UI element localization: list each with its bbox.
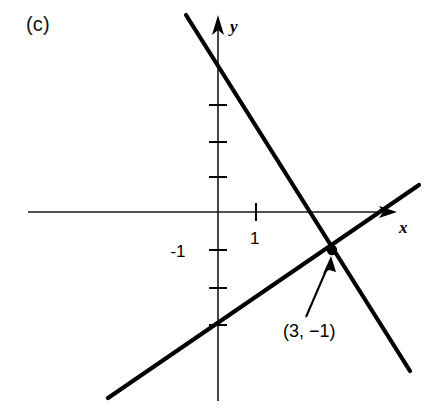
y-axis-label: y (228, 17, 238, 36)
annotation-arrowhead (323, 256, 336, 274)
intersection-point-dot (327, 245, 337, 255)
y-tick-label-minus-1: -1 (170, 242, 185, 261)
intersection-annotation-label: (3, −1) (283, 321, 336, 341)
x-tick-label-1: 1 (250, 229, 259, 248)
x-axis-label: x (398, 218, 408, 237)
figure-container: (c) y x 1 -1 (0, 0, 432, 411)
annotation-arrow (306, 256, 336, 317)
coordinate-graph: y x 1 -1 (3, −1) (0, 0, 432, 411)
rising-line (108, 185, 419, 398)
x-axis-group (28, 206, 397, 218)
annotation-arrow-shaft (306, 266, 328, 317)
descending-line (186, 15, 410, 371)
